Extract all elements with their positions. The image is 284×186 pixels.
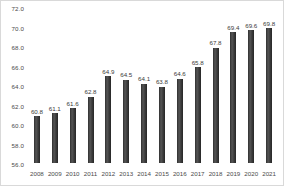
bar-value-label: 63.8: [156, 79, 168, 85]
bar-value-label: 69.8: [263, 21, 275, 27]
bar: 60.8: [34, 116, 40, 163]
bar-slot: 69.8: [260, 9, 278, 163]
bar-value-label: 69.6: [245, 23, 257, 29]
bar: 64.6: [177, 79, 183, 163]
x-axis-tick-label: 2012: [99, 167, 117, 181]
y-axis: 72.070.068.066.064.062.060.058.056.0: [1, 9, 27, 165]
bar: 64.5: [123, 80, 129, 163]
bar-slot: 64.9: [99, 9, 117, 163]
y-axis-tick-label: 62.0: [12, 103, 24, 109]
bar: 67.8: [213, 48, 219, 163]
x-axis-tick-label: 2015: [153, 167, 171, 181]
bar-slot: 61.6: [64, 9, 82, 163]
x-axis-tick-label: 2009: [46, 167, 64, 181]
x-axis-tick-label: 2013: [117, 167, 135, 181]
bar-value-label: 60.8: [31, 109, 43, 115]
bar: 69.8: [266, 28, 272, 163]
bar-slot: 61.1: [46, 9, 64, 163]
bar: 69.6: [248, 30, 254, 163]
x-axis-tick-label: 2014: [135, 167, 153, 181]
bar: 63.8: [159, 87, 165, 163]
bar-slot: 64.6: [171, 9, 189, 163]
bar-value-label: 64.1: [138, 76, 150, 82]
x-axis-tick-label: 2020: [242, 167, 260, 181]
x-axis: 2008200920102011201220132014201520162017…: [27, 167, 279, 181]
bar-value-label: 62.8: [84, 89, 96, 95]
x-axis-tick-label: 2019: [224, 167, 242, 181]
bar-slot: 69.6: [242, 9, 260, 163]
bar-slot: 62.8: [82, 9, 100, 163]
bar: 69.4: [230, 32, 236, 163]
x-axis-tick-label: 2010: [64, 167, 82, 181]
bar-value-label: 65.8: [192, 60, 204, 66]
bar-slot: 60.8: [28, 9, 46, 163]
bar-value-label: 64.6: [174, 71, 186, 77]
bar: 64.1: [141, 84, 147, 163]
bar-value-label: 64.9: [102, 69, 114, 75]
x-axis-tick-label: 2011: [82, 167, 100, 181]
bar-slot: 64.5: [117, 9, 135, 163]
bar-chart: 72.070.068.066.064.062.060.058.056.0 60.…: [0, 0, 284, 186]
plot-area: 60.861.161.662.864.964.564.163.864.665.8…: [27, 9, 279, 163]
bar: 64.9: [105, 76, 111, 163]
bar: 65.8: [195, 67, 201, 163]
bar-value-label: 64.5: [120, 72, 132, 78]
x-axis-tick-label: 2021: [260, 167, 278, 181]
y-axis-tick-label: 56.0: [12, 162, 24, 168]
bar-value-label: 61.1: [49, 106, 61, 112]
bar-slot: 67.8: [207, 9, 225, 163]
bar-value-label: 67.8: [209, 40, 221, 46]
bar-series: 60.861.161.662.864.964.564.163.864.665.8…: [27, 9, 279, 163]
y-axis-tick-label: 60.0: [12, 123, 24, 129]
x-axis-tick-label: 2017: [189, 167, 207, 181]
y-axis-tick-label: 72.0: [12, 6, 24, 12]
bar: 62.8: [88, 97, 94, 163]
bar-value-label: 61.6: [67, 101, 79, 107]
bar: 61.6: [70, 108, 76, 163]
y-axis-tick-label: 66.0: [12, 64, 24, 70]
y-axis-tick-label: 68.0: [12, 45, 24, 51]
y-axis-tick-label: 58.0: [12, 142, 24, 148]
x-axis-tick-label: 2016: [171, 167, 189, 181]
bar-slot: 64.1: [135, 9, 153, 163]
y-axis-tick-label: 70.0: [12, 25, 24, 31]
bar-slot: 65.8: [189, 9, 207, 163]
bar-value-label: 69.4: [227, 25, 239, 31]
x-axis-tick-label: 2018: [207, 167, 225, 181]
bar: 61.1: [52, 113, 58, 163]
y-axis-tick-label: 64.0: [12, 84, 24, 90]
bar-slot: 69.4: [224, 9, 242, 163]
x-axis-tick-label: 2008: [28, 167, 46, 181]
bar-slot: 63.8: [153, 9, 171, 163]
